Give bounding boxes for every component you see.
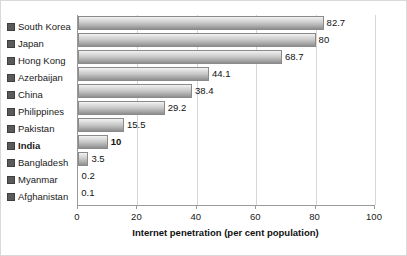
square-bullet-icon xyxy=(7,23,15,31)
x-axis-tick-label: 20 xyxy=(131,211,142,222)
category-label-row: India xyxy=(7,137,77,154)
x-axis-tick-label: 100 xyxy=(366,211,382,222)
bar-value-label: 38.4 xyxy=(192,84,214,98)
bar xyxy=(78,67,209,81)
category-label-row: Philippines xyxy=(7,103,77,120)
bar xyxy=(78,152,88,166)
bar-row: 44.1 xyxy=(78,66,375,83)
category-label-row: Bangladesh xyxy=(7,154,77,171)
x-axis-title: Internet penetration (per cent populatio… xyxy=(77,227,374,238)
bar-value-label: 0.2 xyxy=(79,169,95,183)
bar-value-label: 10 xyxy=(108,135,122,149)
bar-chart: South KoreaJapanHong KongAzerbaijanChina… xyxy=(0,0,407,256)
square-bullet-icon xyxy=(7,176,15,184)
category-label-row: Japan xyxy=(7,35,77,52)
category-label-row: Myanmar xyxy=(7,171,77,188)
category-label: Azerbaijan xyxy=(18,73,63,83)
category-label-row: Hong Kong xyxy=(7,52,77,69)
bar-value-label: 80 xyxy=(316,33,330,47)
category-label: India xyxy=(18,141,40,151)
bar-row: 68.7 xyxy=(78,49,375,66)
square-bullet-icon xyxy=(7,74,15,82)
square-bullet-icon xyxy=(7,193,15,201)
category-label: Pakistan xyxy=(18,124,54,134)
bar-row: 0.2 xyxy=(78,168,375,185)
x-axis-tick xyxy=(255,205,256,209)
category-label-row: Pakistan xyxy=(7,120,77,137)
category-label: Japan xyxy=(18,39,44,49)
bar-row: 10 xyxy=(78,134,375,151)
category-label: Philippines xyxy=(18,107,64,117)
x-axis-tick-label: 40 xyxy=(191,211,202,222)
category-label-row: China xyxy=(7,86,77,103)
x-axis-line xyxy=(77,205,374,206)
bar-row: 82.7 xyxy=(78,15,375,32)
bar xyxy=(78,33,316,47)
square-bullet-icon xyxy=(7,159,15,167)
category-label: South Korea xyxy=(18,22,71,32)
x-axis-tick-label: 0 xyxy=(74,211,79,222)
bar-row: 15.5 xyxy=(78,117,375,134)
bar xyxy=(78,101,165,115)
category-axis: South KoreaJapanHong KongAzerbaijanChina… xyxy=(7,18,77,205)
square-bullet-icon xyxy=(7,57,15,65)
bar xyxy=(78,84,192,98)
category-label: Bangladesh xyxy=(18,158,68,168)
bar-value-label: 0.1 xyxy=(78,186,94,200)
gridline xyxy=(375,15,376,205)
x-axis-tick xyxy=(315,205,316,209)
x-axis-tick xyxy=(136,205,137,209)
x-axis-tick-label: 60 xyxy=(250,211,261,222)
category-label-row: South Korea xyxy=(7,18,77,35)
category-label-row: Azerbaijan xyxy=(7,69,77,86)
bar xyxy=(78,135,108,149)
bar xyxy=(78,118,124,132)
bar-row: 38.4 xyxy=(78,83,375,100)
square-bullet-icon xyxy=(7,40,15,48)
bar xyxy=(78,16,324,30)
category-label: Afghanistan xyxy=(18,192,68,202)
x-axis-tick-label: 80 xyxy=(309,211,320,222)
bar-value-label: 44.1 xyxy=(209,67,231,81)
category-label: China xyxy=(18,90,43,100)
x-axis-tick xyxy=(374,205,375,209)
square-bullet-icon xyxy=(7,125,15,133)
bar-value-label: 82.7 xyxy=(324,16,346,30)
square-bullet-icon xyxy=(7,142,15,150)
bar-value-label: 29.2 xyxy=(165,101,187,115)
bar-value-label: 3.5 xyxy=(88,152,104,166)
x-axis-tick xyxy=(77,205,78,209)
category-label-row: Afghanistan xyxy=(7,188,77,205)
square-bullet-icon xyxy=(7,108,15,116)
bar-value-label: 68.7 xyxy=(282,50,304,64)
bar-row: 3.5 xyxy=(78,151,375,168)
bar-row: 80 xyxy=(78,32,375,49)
bar-row: 0.1 xyxy=(78,185,375,202)
bar-value-label: 15.5 xyxy=(124,118,146,132)
bar-row: 29.2 xyxy=(78,100,375,117)
category-label: Hong Kong xyxy=(18,56,66,66)
bar xyxy=(78,50,282,64)
x-axis-tick xyxy=(196,205,197,209)
plot-area: 82.78068.744.138.429.215.5103.50.20.1 xyxy=(77,15,374,205)
category-label: Myanmar xyxy=(18,175,58,185)
square-bullet-icon xyxy=(7,91,15,99)
